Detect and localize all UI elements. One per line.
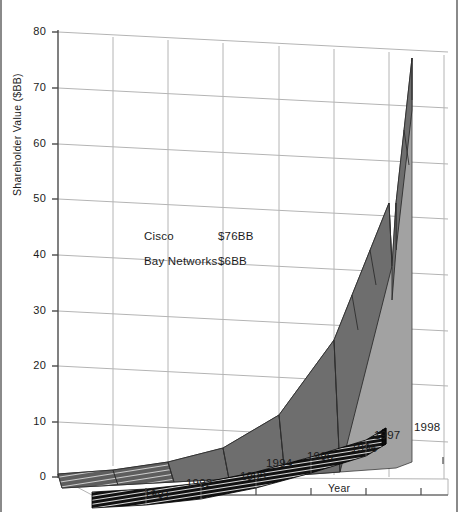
y-axis-title: Shareholder Value ($BB): [11, 66, 23, 196]
x-axis-title: Year: [328, 482, 350, 494]
series-cisco: [58, 58, 412, 488]
legend-bay-value: $6BB: [218, 255, 247, 267]
y-tick-label: 30: [20, 304, 46, 316]
y-tick-label: 60: [20, 137, 46, 149]
legend-cisco-value: $76BB: [218, 230, 254, 242]
y-tick-label: 80: [20, 25, 46, 37]
y-tick-label: 0: [20, 470, 46, 482]
x-tick-label-1997: 1997: [374, 429, 400, 441]
x-tick-label-1995: 1995: [307, 450, 333, 462]
legend-cisco-label: Cisco: [144, 230, 174, 242]
x-tick-label-1992: 1992: [186, 477, 212, 489]
chart-figure: 80 70 60 50 40 30 20 10 0 Shareholder Va…: [0, 0, 458, 512]
y-tick-label: 40: [20, 248, 46, 260]
cisco-front-face: [58, 58, 412, 488]
x-tick-label-1994: 1994: [266, 457, 292, 469]
x-tick-label-1998: 1998: [414, 421, 440, 433]
x-tick-label-1993: 1993: [240, 470, 266, 482]
legend-bay-label: Bay Networks: [144, 255, 217, 267]
y-tick-label: 20: [20, 359, 46, 371]
y-tick-label: 50: [20, 192, 46, 204]
y-tick-label: 70: [20, 81, 46, 93]
x-tick-label-1991: 1991: [144, 488, 170, 500]
x-tick-label-1996: 1996: [351, 442, 377, 454]
y-tick-label: 10: [20, 415, 46, 427]
y-axis: [52, 30, 58, 478]
